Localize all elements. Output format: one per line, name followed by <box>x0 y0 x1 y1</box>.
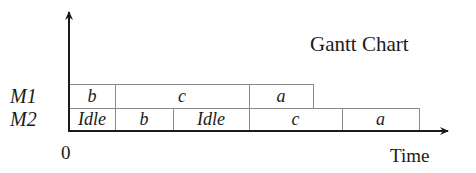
x-axis-label: Time <box>390 145 429 166</box>
task-block: b <box>116 109 174 132</box>
task-label: a <box>277 86 286 106</box>
task-label: a <box>376 109 385 129</box>
task-block: Idle <box>174 109 250 132</box>
gantt-chart-canvas: Gantt Chart M1bcaM2IdlebIdleca 0 Time <box>0 0 476 173</box>
task-block: a <box>343 109 420 132</box>
task-label: c <box>178 86 186 106</box>
task-label: c <box>292 109 300 129</box>
gantt-rows: M1bcaM2IdlebIdleca <box>9 85 420 132</box>
chart-title: Gantt Chart <box>310 32 409 56</box>
gantt-chart: Gantt Chart M1bcaM2IdlebIdleca 0 Time <box>0 0 476 173</box>
task-label: Idle <box>196 109 225 129</box>
gantt-row-m2: M2IdlebIdleca <box>9 108 420 132</box>
machine-label: M2 <box>9 108 37 130</box>
origin-label: 0 <box>61 142 71 163</box>
task-block: c <box>116 85 250 109</box>
task-block: Idle <box>70 109 116 132</box>
task-label: Idle <box>77 109 106 129</box>
task-label: b <box>140 109 149 129</box>
task-block: a <box>250 85 314 109</box>
task-block: c <box>250 109 343 132</box>
task-block: b <box>70 85 116 109</box>
machine-label: M1 <box>9 85 37 107</box>
gantt-row-m1: M1bca <box>9 85 314 109</box>
task-label: b <box>88 86 97 106</box>
